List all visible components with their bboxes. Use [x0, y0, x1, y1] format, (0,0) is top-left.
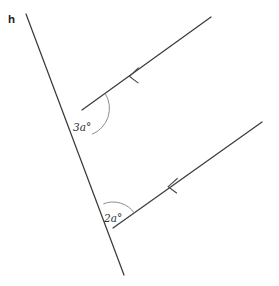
upper-parallel-line: [82, 17, 211, 110]
transversal-line-h: [26, 14, 124, 275]
angle-label-upper: 3a°: [73, 121, 91, 133]
diagram-canvas: 3a° 2a° h: [0, 0, 279, 286]
line-label-h: h: [8, 13, 15, 25]
angle-label-lower: 2a°: [103, 212, 122, 224]
lower-parallel-line: [113, 122, 262, 228]
angle-arc-upper: [92, 94, 110, 135]
geometry-diagram: 3a° 2a° h: [0, 0, 279, 286]
